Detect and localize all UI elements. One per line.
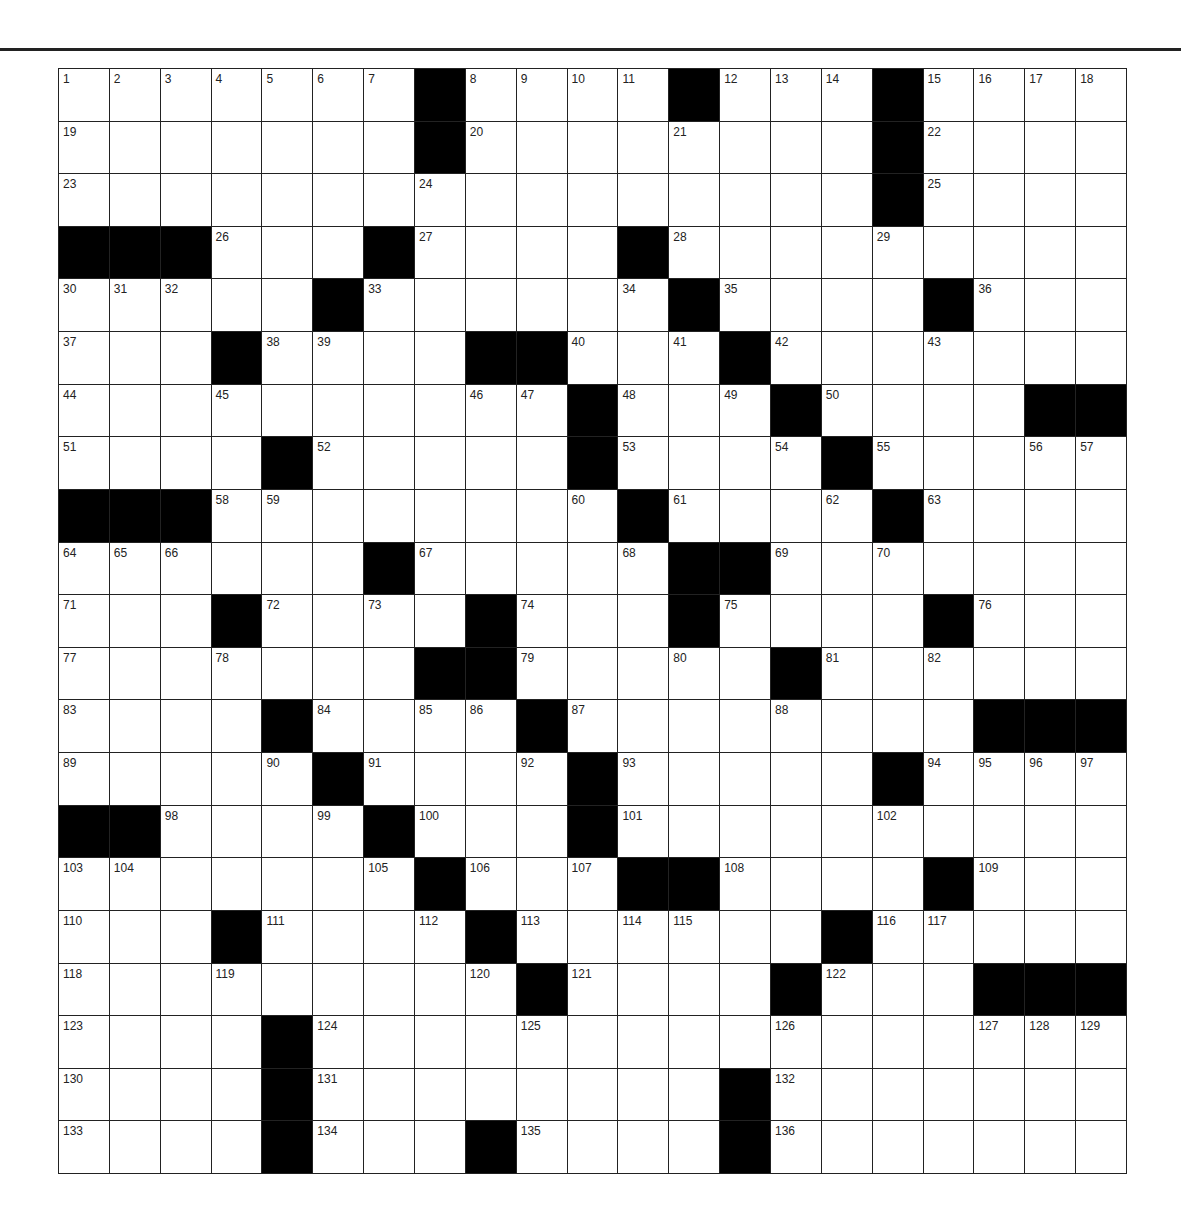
grid-cell[interactable]: [1076, 911, 1126, 963]
grid-cell[interactable]: 122: [822, 964, 872, 1016]
grid-cell[interactable]: [618, 648, 668, 700]
grid-cell[interactable]: [873, 385, 923, 437]
grid-cell[interactable]: 61: [669, 490, 719, 542]
grid-cell[interactable]: [313, 648, 363, 700]
grid-cell[interactable]: 50: [822, 385, 872, 437]
grid-cell[interactable]: 63: [924, 490, 974, 542]
grid-cell[interactable]: [1076, 122, 1126, 174]
grid-cell[interactable]: 8: [466, 69, 516, 121]
grid-cell[interactable]: 97: [1076, 753, 1126, 805]
grid-cell[interactable]: 65: [110, 543, 160, 595]
grid-cell[interactable]: 64: [59, 543, 109, 595]
grid-cell[interactable]: 119: [212, 964, 262, 1016]
grid-cell[interactable]: 21: [669, 122, 719, 174]
grid-cell[interactable]: [720, 806, 770, 858]
grid-cell[interactable]: [618, 1069, 668, 1121]
grid-cell[interactable]: [161, 911, 211, 963]
grid-cell[interactable]: [161, 332, 211, 384]
grid-cell[interactable]: [822, 279, 872, 331]
grid-cell[interactable]: [771, 858, 821, 910]
grid-cell[interactable]: [161, 753, 211, 805]
grid-cell[interactable]: [110, 385, 160, 437]
grid-cell[interactable]: 99: [313, 806, 363, 858]
grid-cell[interactable]: 81: [822, 648, 872, 700]
grid-cell[interactable]: [669, 1121, 719, 1173]
grid-cell[interactable]: 96: [1025, 753, 1075, 805]
grid-cell[interactable]: 3: [161, 69, 211, 121]
grid-cell[interactable]: [466, 279, 516, 331]
grid-cell[interactable]: [924, 700, 974, 752]
grid-cell[interactable]: [873, 858, 923, 910]
grid-cell[interactable]: 1: [59, 69, 109, 121]
grid-cell[interactable]: [364, 700, 414, 752]
grid-cell[interactable]: 77: [59, 648, 109, 700]
grid-cell[interactable]: [1076, 174, 1126, 226]
grid-cell[interactable]: [669, 806, 719, 858]
grid-cell[interactable]: 71: [59, 595, 109, 647]
grid-cell[interactable]: [924, 437, 974, 489]
grid-cell[interactable]: [415, 279, 465, 331]
grid-cell[interactable]: 17: [1025, 69, 1075, 121]
grid-cell[interactable]: 47: [517, 385, 567, 437]
grid-cell[interactable]: 32: [161, 279, 211, 331]
grid-cell[interactable]: [415, 1016, 465, 1068]
grid-cell[interactable]: 103: [59, 858, 109, 910]
grid-cell[interactable]: [466, 490, 516, 542]
grid-cell[interactable]: [110, 595, 160, 647]
grid-cell[interactable]: [415, 1121, 465, 1173]
grid-cell[interactable]: [771, 174, 821, 226]
grid-cell[interactable]: 88: [771, 700, 821, 752]
grid-cell[interactable]: [466, 1069, 516, 1121]
grid-cell[interactable]: [313, 227, 363, 279]
grid-cell[interactable]: [974, 490, 1024, 542]
grid-cell[interactable]: [568, 174, 618, 226]
grid-cell[interactable]: [924, 806, 974, 858]
grid-cell[interactable]: [1025, 648, 1075, 700]
grid-cell[interactable]: 135: [517, 1121, 567, 1173]
grid-cell[interactable]: 126: [771, 1016, 821, 1068]
grid-cell[interactable]: [822, 753, 872, 805]
grid-cell[interactable]: [669, 385, 719, 437]
grid-cell[interactable]: 33: [364, 279, 414, 331]
grid-cell[interactable]: 68: [618, 543, 668, 595]
grid-cell[interactable]: [212, 1069, 262, 1121]
grid-cell[interactable]: 15: [924, 69, 974, 121]
grid-cell[interactable]: [415, 595, 465, 647]
grid-cell[interactable]: [364, 385, 414, 437]
grid-cell[interactable]: [924, 964, 974, 1016]
grid-cell[interactable]: [1076, 490, 1126, 542]
grid-cell[interactable]: [161, 1016, 211, 1068]
grid-cell[interactable]: [1025, 543, 1075, 595]
grid-cell[interactable]: [364, 122, 414, 174]
grid-cell[interactable]: [974, 1069, 1024, 1121]
grid-cell[interactable]: 72: [262, 595, 312, 647]
grid-cell[interactable]: [771, 227, 821, 279]
grid-cell[interactable]: 115: [669, 911, 719, 963]
grid-cell[interactable]: 12: [720, 69, 770, 121]
grid-cell[interactable]: [974, 1121, 1024, 1173]
grid-cell[interactable]: 25: [924, 174, 974, 226]
grid-cell[interactable]: [212, 279, 262, 331]
grid-cell[interactable]: [1076, 595, 1126, 647]
grid-cell[interactable]: [822, 543, 872, 595]
grid-cell[interactable]: [873, 964, 923, 1016]
grid-cell[interactable]: 76: [974, 595, 1024, 647]
grid-cell[interactable]: 4: [212, 69, 262, 121]
grid-cell[interactable]: 102: [873, 806, 923, 858]
grid-cell[interactable]: [720, 964, 770, 1016]
grid-cell[interactable]: 75: [720, 595, 770, 647]
grid-cell[interactable]: 100: [415, 806, 465, 858]
grid-cell[interactable]: [873, 279, 923, 331]
grid-cell[interactable]: [212, 806, 262, 858]
grid-cell[interactable]: 42: [771, 332, 821, 384]
grid-cell[interactable]: 84: [313, 700, 363, 752]
grid-cell[interactable]: [974, 385, 1024, 437]
grid-cell[interactable]: [822, 1016, 872, 1068]
grid-cell[interactable]: 58: [212, 490, 262, 542]
grid-cell[interactable]: 30: [59, 279, 109, 331]
grid-cell[interactable]: [110, 753, 160, 805]
grid-cell[interactable]: 108: [720, 858, 770, 910]
grid-cell[interactable]: 78: [212, 648, 262, 700]
grid-cell[interactable]: [568, 1121, 618, 1173]
grid-cell[interactable]: [771, 911, 821, 963]
